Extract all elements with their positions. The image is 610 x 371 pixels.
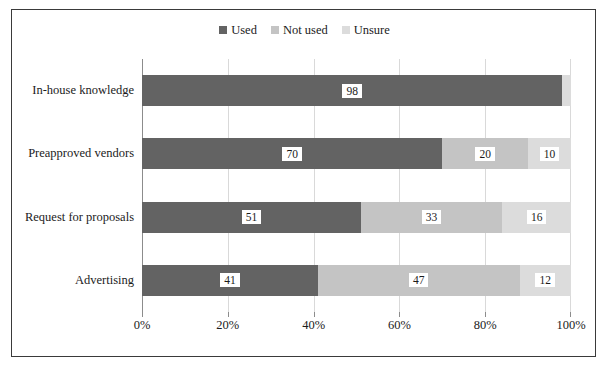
bar-segment-used[interactable]: 98 bbox=[142, 75, 562, 106]
tickmark-60% bbox=[399, 312, 400, 317]
legend-entry-used[interactable]: Used bbox=[219, 24, 257, 37]
chart-legend: Used Not used Unsure bbox=[12, 24, 597, 37]
x-axis-label-0%: 0% bbox=[134, 318, 151, 333]
bar-segment-not-used[interactable]: 47 bbox=[318, 265, 520, 296]
legend-swatch-not-used-icon bbox=[271, 26, 279, 34]
bar-row: 98 bbox=[142, 75, 571, 106]
tickmark-0% bbox=[142, 312, 143, 317]
legend-label-used: Used bbox=[231, 24, 257, 37]
bar-segment-unsure[interactable]: 10 bbox=[528, 138, 571, 169]
bar-segment-used[interactable]: 51 bbox=[142, 202, 361, 233]
y-axis-label-request-for-proposals: Request for proposals bbox=[25, 202, 134, 233]
legend-entry-not-used[interactable]: Not used bbox=[271, 24, 328, 37]
x-axis-label-40%: 40% bbox=[302, 318, 325, 333]
y-axis-label-in-house-knowledge: In-house knowledge bbox=[32, 75, 134, 106]
data-label: 70 bbox=[282, 147, 302, 161]
bar-segment-used[interactable]: 41 bbox=[142, 265, 318, 296]
x-axis-tick-labels: 0%20%40%60%80%100% bbox=[142, 318, 571, 336]
bar-segment-unsure[interactable] bbox=[562, 75, 571, 106]
bar-segment-unsure[interactable]: 16 bbox=[502, 202, 571, 233]
data-label: 16 bbox=[527, 210, 547, 224]
legend-label-not-used: Not used bbox=[283, 24, 328, 37]
legend-label-unsure: Unsure bbox=[354, 24, 390, 37]
bar-row: 414712 bbox=[142, 265, 571, 296]
bar-segment-not-used[interactable]: 33 bbox=[361, 202, 503, 233]
data-label: 98 bbox=[342, 84, 362, 98]
data-label: 20 bbox=[475, 147, 495, 161]
y-axis-category-labels: In-house knowledgePreapproved vendorsReq… bbox=[12, 59, 138, 312]
bar-row: 513316 bbox=[142, 202, 571, 233]
data-label: 51 bbox=[242, 210, 262, 224]
bar-segment-unsure[interactable]: 12 bbox=[520, 265, 571, 296]
bar-segment-used[interactable]: 70 bbox=[142, 138, 442, 169]
tickmark-40% bbox=[314, 312, 315, 317]
chart-container: Used Not used Unsure In-house knowledgeP… bbox=[11, 9, 596, 357]
data-label: 10 bbox=[540, 147, 560, 161]
data-label: 33 bbox=[422, 210, 442, 224]
data-label: 41 bbox=[220, 273, 240, 287]
bar-series-group: 98702010513316414712 bbox=[142, 59, 571, 312]
x-axis-label-60%: 60% bbox=[388, 318, 411, 333]
data-label: 47 bbox=[409, 273, 429, 287]
legend-swatch-used-icon bbox=[219, 26, 227, 34]
x-axis-label-80%: 80% bbox=[474, 318, 497, 333]
data-label: 12 bbox=[535, 273, 555, 287]
legend-swatch-unsure-icon bbox=[342, 26, 350, 34]
bar-row: 702010 bbox=[142, 138, 571, 169]
tickmark-100% bbox=[570, 312, 571, 317]
plot-area: 98702010513316414712 bbox=[142, 59, 571, 312]
x-axis-label-20%: 20% bbox=[216, 318, 239, 333]
bar-segment-not-used[interactable]: 20 bbox=[442, 138, 528, 169]
tickmark-80% bbox=[485, 312, 486, 317]
y-axis-label-advertising: Advertising bbox=[75, 265, 134, 296]
tickmark-20% bbox=[228, 312, 229, 317]
y-axis-label-preapproved-vendors: Preapproved vendors bbox=[28, 138, 134, 169]
legend-entry-unsure[interactable]: Unsure bbox=[342, 24, 390, 37]
x-axis-label-100%: 100% bbox=[556, 318, 585, 333]
